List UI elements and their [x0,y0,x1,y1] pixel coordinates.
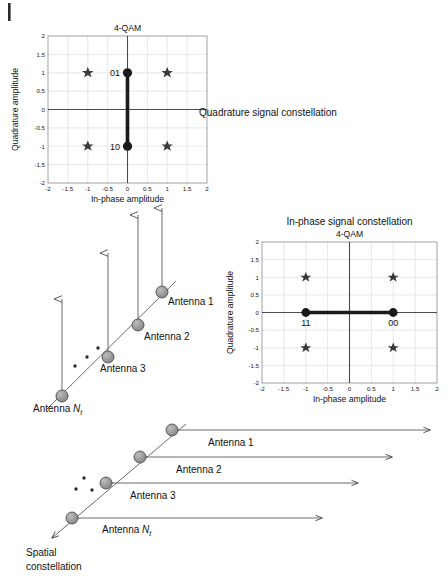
lower-label-antenna-2: Antenna 2 [176,464,222,475]
svg-text:2: 2 [205,185,209,192]
svg-text:0: 0 [42,106,46,113]
lower-antenna-array-diagram: Antenna 1 Antenna 2 Antenna 3 Antenna Nt… [26,424,430,572]
upper-label-antenna-2: Antenna 2 [144,331,190,342]
upper-label-antenna-1: Antenna 1 [168,296,214,307]
inphase-ylabel: Quadrature amplitude [225,271,235,354]
lower-label-antenna-3: Antenna 3 [130,490,176,501]
svg-text:0.5: 0.5 [367,385,376,392]
svg-text:-0.5: -0.5 [102,185,113,192]
svg-text:-2: -2 [45,185,51,192]
upper-label-antenna-3: Antenna 3 [100,363,146,374]
svg-text:2: 2 [256,238,260,245]
upper-node-antenna-nt [56,390,68,402]
svg-text:-2: -2 [39,179,45,186]
spatial-constellation-caption-line1: Spatial [26,547,57,558]
inphase-symbol-label-00: 00 [388,318,398,328]
lower-label-antenna-nt-prefix: Antenna [102,524,142,535]
inphase-chart-title: 4-QAM [336,229,363,239]
quad-symbol-label-10: 10 [110,142,120,152]
svg-text:1.5: 1.5 [183,185,192,192]
quad-chart-caption: Quadrature signal constellation [199,107,337,118]
upper-ellipsis-dots [73,346,99,367]
lower-node-antenna-3 [100,477,112,489]
upper-node-antenna-1 [156,286,168,298]
lower-label-antenna-nt-sub: t [149,530,152,537]
inphase-symbol-label-11: 11 [301,318,310,328]
svg-text:1: 1 [165,185,169,192]
svg-text:-1: -1 [303,385,309,392]
svg-text:0.5: 0.5 [36,87,45,94]
svg-text:0: 0 [256,309,260,316]
lower-label-antenna-nt: Antenna Nt [102,524,152,537]
svg-text:0: 0 [126,185,130,192]
svg-text:-1.5: -1.5 [279,385,290,392]
lower-node-antenna-2 [134,451,146,463]
svg-text:-0.5: -0.5 [34,124,45,131]
svg-text:-0.5: -0.5 [322,385,333,392]
quadrature-constellation-chart: -2 -1.5 -1 -0.5 0 0.5 1 1.5 2 2 1.5 1 0.… [10,23,337,204]
svg-text:-2: -2 [253,379,259,386]
svg-text:0.5: 0.5 [250,291,259,298]
svg-text:1.5: 1.5 [411,385,420,392]
spatial-constellation-caption-line2: constellation [26,561,82,572]
upper-label-antenna-nt-sub: t [80,409,83,416]
quad-y-tick-labels: 2 1.5 1 0.5 0 -0.5 -1 -1.5 -2 [34,32,45,186]
inphase-chart-caption: In-phase signal constellation [286,216,412,227]
svg-text:-1.5: -1.5 [63,185,74,192]
quad-symbol-dot-01 [123,68,132,77]
upper-antenna-array-diagram: Antenna 1 Antenna 2 Antenna 3 Antenna Nt [33,208,214,416]
lower-node-antenna-nt [66,512,78,524]
svg-text:-1: -1 [253,344,259,351]
quad-chart-title: 4-QAM [114,23,141,33]
upper-label-antenna-nt-prefix: Antenna [33,403,73,414]
upper-label-antenna-nt: Antenna Nt [33,403,83,416]
page-margin-mark [8,3,11,21]
svg-text:-1.5: -1.5 [248,362,259,369]
lower-node-antenna-1 [166,424,178,436]
svg-text:1: 1 [42,69,46,76]
quad-xlabel: In-phase amplitude [91,194,164,204]
quad-x-tick-labels: -2 -1.5 -1 -0.5 0 0.5 1 1.5 2 [45,185,209,192]
svg-text:1: 1 [391,385,395,392]
svg-text:0: 0 [348,385,352,392]
svg-text:-1: -1 [85,185,91,192]
svg-text:-2: -2 [259,385,265,392]
quad-symbol-label-01: 01 [110,68,120,78]
quad-symbol-dot-10 [123,142,132,151]
inphase-x-tick-labels: -2 -1.5 -1 -0.5 0 0.5 1 1.5 2 [259,385,439,392]
svg-text:-1.5: -1.5 [34,161,45,168]
inphase-y-tick-labels: 2 1.5 1 0.5 0 -0.5 -1 -1.5 -2 [248,238,259,386]
quad-ylabel: Quadrature amplitude [10,68,20,151]
svg-text:1.5: 1.5 [36,51,45,58]
figure-canvas: -2 -1.5 -1 -0.5 0 0.5 1 1.5 2 2 1.5 1 0.… [0,0,448,585]
inphase-symbol-dot-11 [301,308,310,317]
lower-label-antenna-1: Antenna 1 [208,437,254,448]
svg-text:-1: -1 [39,143,45,150]
inphase-xlabel: In-phase amplitude [313,394,386,404]
lower-ellipsis-dots [74,476,93,491]
svg-text:2: 2 [435,385,439,392]
svg-text:1: 1 [256,274,260,281]
svg-text:0.5: 0.5 [143,185,152,192]
upper-node-antenna-3 [102,351,114,363]
svg-text:2: 2 [42,32,46,39]
svg-text:1.5: 1.5 [250,256,259,263]
inphase-constellation-chart: -2 -1.5 -1 -0.5 0 0.5 1 1.5 2 2 1.5 1 0.… [225,216,439,404]
inphase-symbol-dot-00 [389,308,398,317]
upper-node-antenna-2 [132,319,144,331]
svg-text:-0.5: -0.5 [248,326,259,333]
